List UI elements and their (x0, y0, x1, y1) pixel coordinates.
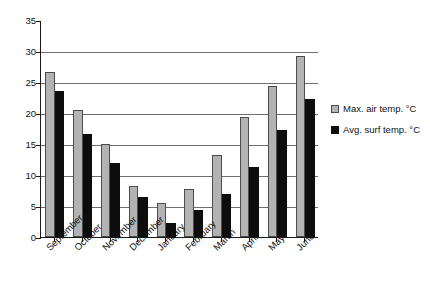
y-axis-tick-label: 35 (6, 16, 36, 25)
legend-swatch-max-air-temp-icon (331, 105, 339, 113)
bar-avg-surf-temp-may (277, 130, 287, 237)
bar-group (291, 21, 319, 237)
bar-group (152, 21, 180, 237)
y-axis-tick-label: 25 (6, 78, 36, 87)
bar-group (97, 21, 125, 237)
y-axis-tick (36, 238, 41, 239)
bar-max-air-temp-november (101, 144, 111, 237)
bar-max-air-temp-april (240, 117, 250, 237)
bar-max-air-temp-june (296, 56, 306, 237)
legend-item: Max. air temp. °C (331, 104, 420, 114)
bar-max-air-temp-february (184, 189, 194, 237)
bar-chart: 05101520253035 SeptemberOctoberNovemberD… (0, 0, 430, 293)
bar-group (263, 21, 291, 237)
bar-avg-surf-temp-april (249, 167, 259, 237)
bar-group (180, 21, 208, 237)
bar-avg-surf-temp-september (55, 91, 65, 237)
legend-item: Avg. surf temp. °C (331, 125, 420, 135)
bar-group (41, 21, 69, 237)
bar-group (236, 21, 264, 237)
y-axis-tick-label: 30 (6, 47, 36, 56)
bar-group (124, 21, 152, 237)
bar-series-container (41, 21, 318, 237)
legend-label: Max. air temp. °C (343, 104, 416, 114)
bar-avg-surf-temp-june (305, 99, 315, 237)
y-axis-tick-label: 10 (6, 171, 36, 180)
legend-swatch-avg-surf-temp-icon (331, 126, 339, 134)
chart-legend: Max. air temp. °CAvg. surf temp. °C (331, 104, 420, 146)
bar-max-air-temp-september (45, 72, 55, 237)
bar-max-air-temp-may (268, 86, 278, 237)
y-axis-tick-label: 15 (6, 140, 36, 149)
bar-avg-surf-temp-october (83, 134, 93, 237)
y-axis-tick-label: 0 (6, 233, 36, 242)
y-axis-tick-label: 20 (6, 109, 36, 118)
bar-group (208, 21, 236, 237)
bar-group (69, 21, 97, 237)
y-axis-tick-label: 5 (6, 202, 36, 211)
plot-area (40, 21, 318, 238)
legend-label: Avg. surf temp. °C (343, 125, 420, 135)
